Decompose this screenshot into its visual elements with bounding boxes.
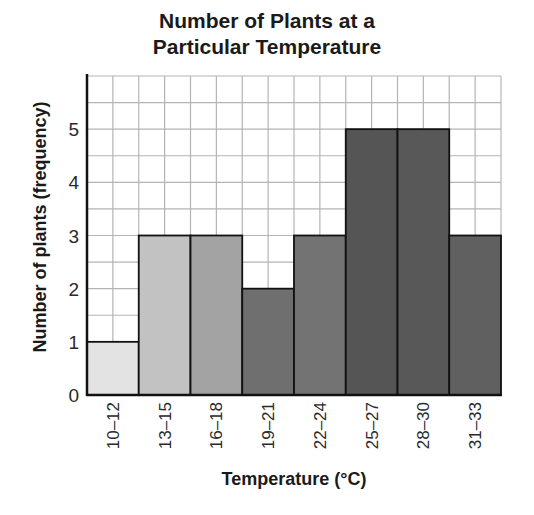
x-tick-label: 31–33 bbox=[466, 402, 485, 449]
bar-25–27 bbox=[346, 129, 398, 395]
y-tick-label: 4 bbox=[68, 172, 79, 193]
bar-16–18 bbox=[191, 236, 243, 396]
x-tick-label: 16–18 bbox=[207, 402, 226, 449]
x-tick-label: 19–21 bbox=[259, 402, 278, 449]
bar-22–24 bbox=[294, 236, 346, 396]
y-tick-label: 0 bbox=[68, 385, 79, 406]
x-tick-label: 28–30 bbox=[414, 402, 433, 449]
bar-31–33 bbox=[449, 236, 501, 396]
y-axis-label: Number of plants (frequency) bbox=[30, 113, 51, 353]
bar-13–15 bbox=[139, 236, 191, 396]
x-tick-label: 22–24 bbox=[311, 402, 330, 449]
bar-19–21 bbox=[242, 289, 294, 395]
bar-28–30 bbox=[398, 129, 450, 395]
chart-plot-area: 01234510–1213–1516–1819–2122–2425–2728–3… bbox=[0, 0, 534, 515]
x-tick-label: 10–12 bbox=[104, 402, 123, 449]
bar-10–12 bbox=[87, 342, 139, 395]
y-tick-label: 1 bbox=[68, 332, 79, 353]
y-tick-label: 2 bbox=[68, 279, 79, 300]
y-tick-label: 3 bbox=[68, 226, 79, 247]
y-tick-label: 5 bbox=[68, 119, 79, 140]
x-tick-label: 25–27 bbox=[363, 402, 382, 449]
x-tick-label: 13–15 bbox=[156, 402, 175, 449]
x-axis-label: Temperature (°C) bbox=[87, 469, 501, 490]
